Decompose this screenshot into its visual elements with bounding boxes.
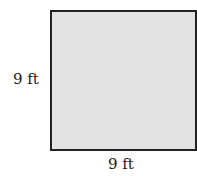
square-shape: [50, 10, 197, 151]
base-length-label: 9 ft: [108, 157, 134, 172]
side-length-label: 9 ft: [13, 72, 39, 87]
